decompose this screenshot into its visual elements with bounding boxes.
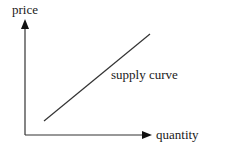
y-axis-label: price (12, 2, 38, 17)
x-axis-arrowhead-icon (142, 131, 152, 139)
supply-diagram: price supply curve quantity (0, 0, 226, 147)
curve-label: supply curve (111, 67, 178, 82)
y-axis-arrowhead-icon (21, 19, 29, 29)
x-axis-label: quantity (156, 127, 199, 142)
